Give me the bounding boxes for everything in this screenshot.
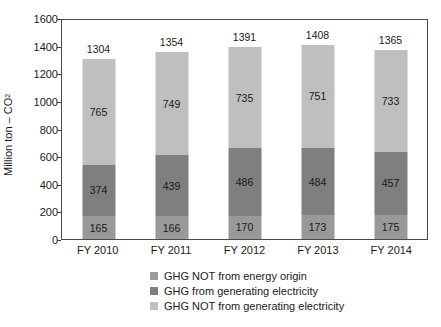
bar-segment-value-label: 735	[228, 92, 261, 104]
bar-segment[interactable]: 439	[155, 155, 188, 216]
y-tick-label: 200	[40, 206, 58, 218]
bar-segment[interactable]: 486	[228, 148, 261, 215]
bar-slot: 1754577331365	[354, 20, 427, 239]
bar-segment-value-label: 733	[374, 95, 407, 107]
x-tick-label: FY 2011	[151, 244, 192, 256]
x-tick-label: FY 2012	[224, 244, 265, 256]
bar-series-layer: 1653747651304166439749135417048673513911…	[62, 20, 427, 239]
bar-segment-value-label: 765	[82, 106, 115, 118]
bar-slot: 1653747651304	[62, 20, 135, 239]
bar-segment[interactable]: 733	[374, 50, 407, 151]
y-tick-label: 600	[40, 151, 58, 163]
y-tick-label: 1000	[34, 96, 58, 108]
bar-slot: 1664397491354	[135, 20, 208, 239]
plot-area: 1653747651304166439749135417048673513911…	[61, 19, 428, 240]
bar-segment-value-label: 170	[228, 221, 261, 233]
bar-segment-value-label: 166	[155, 222, 188, 234]
y-tick-label: 1200	[34, 68, 58, 80]
legend-item-label: GHG from generating electricity	[164, 285, 318, 297]
legend-swatch-icon	[150, 287, 158, 295]
bar-segment-value-label: 486	[228, 176, 261, 188]
y-axis-title-subscript: 2	[4, 94, 11, 98]
bar-segment[interactable]: 735	[228, 47, 261, 149]
bar-segment[interactable]: 173	[301, 215, 334, 239]
bar-total-label: 1391	[233, 31, 256, 43]
legend-swatch-icon	[150, 272, 158, 280]
bar-segment[interactable]: 751	[301, 45, 334, 149]
bar-segment-value-label: 749	[155, 98, 188, 110]
y-axis-tick-labels: 16001400120010008006004002000	[22, 0, 58, 327]
bar-slot: 1734847511408	[281, 20, 354, 239]
bar-segment[interactable]: 165	[82, 216, 115, 239]
y-tick-label: 400	[40, 179, 58, 191]
x-axis-category-labels: FY 2010FY 2011FY 2012FY 2013FY 2014	[61, 244, 428, 260]
bar-segment[interactable]: 484	[301, 148, 334, 215]
bar-segment[interactable]: 765	[82, 59, 115, 165]
bar-segment[interactable]: 170	[228, 216, 261, 239]
bar-slot: 1704867351391	[208, 20, 281, 239]
y-axis-title: Million ton – CO2	[2, 60, 20, 210]
bar-total-label: 1408	[306, 29, 329, 41]
bar-total-label: 1304	[87, 43, 110, 55]
bar-segment[interactable]: 374	[82, 165, 115, 217]
x-tick-label: FY 2013	[297, 244, 338, 256]
bar-total-label: 1365	[379, 34, 402, 46]
legend-item-label: GHG NOT from generating electricity	[164, 300, 344, 312]
stacked-bar-chart: Million ton – CO2 1600140012001000800600…	[0, 0, 441, 327]
bar-segment[interactable]: 749	[155, 52, 188, 155]
bar-segment[interactable]: 457	[374, 152, 407, 215]
bar-segment[interactable]: 166	[155, 216, 188, 239]
bar-segment-value-label: 484	[301, 176, 334, 188]
y-tick-label: 1600	[34, 13, 58, 25]
bar-segment-value-label: 173	[301, 221, 334, 233]
legend-item-label: GHG NOT from energy origin	[164, 270, 307, 282]
y-tickmark	[57, 240, 61, 241]
legend-item[interactable]: GHG from generating electricity	[150, 283, 430, 298]
bar-segment-value-label: 175	[374, 221, 407, 233]
y-tick-label: 1400	[34, 41, 58, 53]
x-tick-label: FY 2010	[77, 244, 118, 256]
bar-segment[interactable]: 175	[374, 215, 407, 239]
legend-item[interactable]: GHG NOT from energy origin	[150, 268, 430, 283]
legend-item[interactable]: GHG NOT from generating electricity	[150, 298, 430, 313]
y-tick-label: 800	[40, 124, 58, 136]
bar-segment-value-label: 165	[82, 222, 115, 234]
bar-segment-value-label: 457	[374, 177, 407, 189]
chart-legend: GHG NOT from energy originGHG from gener…	[150, 268, 430, 313]
y-axis-title-text: Million ton – CO	[2, 98, 14, 176]
bar-segment-value-label: 751	[301, 90, 334, 102]
x-tick-label: FY 2014	[371, 244, 412, 256]
bar-total-label: 1354	[160, 36, 183, 48]
bar-segment-value-label: 439	[155, 180, 188, 192]
legend-swatch-icon	[150, 302, 158, 310]
bar-segment-value-label: 374	[82, 184, 115, 196]
